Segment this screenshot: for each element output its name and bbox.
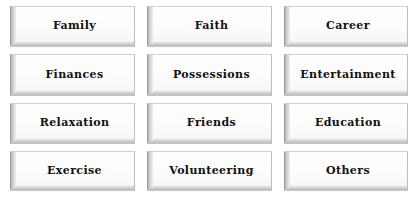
tile-label: Finances bbox=[41, 68, 103, 81]
tile-faith[interactable]: Faith bbox=[147, 6, 272, 47]
tile-label: Career bbox=[322, 19, 370, 32]
tile-label: Entertainment bbox=[296, 68, 396, 81]
tile-label: Relaxation bbox=[36, 116, 110, 129]
tile-label: Family bbox=[49, 19, 96, 32]
tile-career[interactable]: Career bbox=[284, 6, 408, 47]
tile-label: Education bbox=[311, 116, 381, 129]
tile-relaxation[interactable]: Relaxation bbox=[10, 103, 135, 144]
tile-finances[interactable]: Finances bbox=[10, 54, 135, 96]
tile-entertainment[interactable]: Entertainment bbox=[284, 54, 408, 96]
tile-others[interactable]: Others bbox=[284, 151, 408, 191]
tile-label: Friends bbox=[183, 116, 236, 129]
tile-label: Exercise bbox=[43, 164, 102, 177]
tile-label: Others bbox=[322, 164, 370, 177]
category-grid: Family Faith Career Finances Possessions… bbox=[10, 6, 408, 191]
tile-volunteering[interactable]: Volunteering bbox=[147, 151, 272, 191]
tile-label: Volunteering bbox=[165, 164, 254, 177]
tile-friends[interactable]: Friends bbox=[147, 103, 272, 144]
tile-family[interactable]: Family bbox=[10, 6, 135, 47]
tile-possessions[interactable]: Possessions bbox=[147, 54, 272, 96]
tile-label: Possessions bbox=[169, 68, 250, 81]
tile-exercise[interactable]: Exercise bbox=[10, 151, 135, 191]
tile-education[interactable]: Education bbox=[284, 103, 408, 144]
tile-label: Faith bbox=[191, 19, 229, 32]
